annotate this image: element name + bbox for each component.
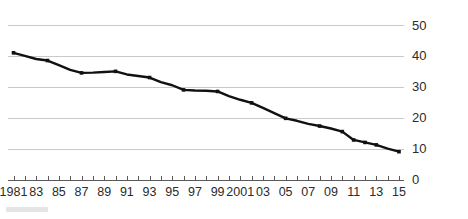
x-axis-label-1983: 83 [29,185,43,199]
data-point-2002 [250,101,254,105]
y-axis-label-40: 40 [412,48,426,63]
x-axis-label-2001: 2001 [226,185,254,199]
data-point-1987 [80,71,84,75]
data-point-1996 [182,88,186,92]
data-point-1981 [12,51,16,55]
x-axis-label-1993: 93 [143,185,157,199]
y-axis-label-50: 50 [412,18,426,33]
y-axis-label-0: 0 [412,172,419,187]
data-point-2012 [363,141,367,145]
x-axis-label-1981: 1981 [0,185,27,199]
x-axis-label-1991: 91 [120,185,134,199]
x-axis-label-1999: 99 [211,185,225,199]
data-point-2013 [375,143,379,147]
x-axis-label-1987: 87 [75,185,89,199]
data-point-1990 [114,70,118,74]
data-point-2010 [341,130,345,134]
data-point-2008 [318,124,322,128]
x-axis-label-2015: 15 [392,185,406,199]
data-point-1993 [148,76,152,80]
x-axis-label-2005: 05 [279,185,293,199]
series-line [14,53,400,152]
gridlines [8,26,404,150]
data-point-1999 [216,90,220,94]
x-axis-ticks [15,176,400,181]
y-axis-label-10: 10 [412,141,426,156]
x-axis-label-2009: 09 [324,185,338,199]
x-axis-label-1985: 85 [52,185,66,199]
y-axis-label-30: 30 [412,79,426,94]
data-point-1984 [46,59,50,63]
x-axis-label-2003: 03 [256,185,270,199]
scan-artifact [6,207,48,212]
x-axis-label-2013: 13 [369,185,383,199]
x-axis-label-2007: 07 [301,185,315,199]
data-point-2005 [284,117,288,121]
data-point-markers [12,51,401,153]
chart-plot-area: 01020304050 1981838587899193959799200103… [0,0,468,219]
x-axis-label-1995: 95 [165,185,179,199]
data-point-2015 [397,150,401,154]
y-axis-label-20: 20 [412,110,426,125]
data-point-2011 [352,138,356,142]
x-axis-label-1989: 89 [97,185,111,199]
x-axis-label-1997: 97 [188,185,202,199]
x-axis-labels: 1981838587899193959799200103050709111315 [0,185,406,199]
data-series [14,53,400,152]
line-chart: 01020304050 1981838587899193959799200103… [0,0,468,219]
x-axis-label-2011: 11 [347,185,360,199]
y-axis-labels: 01020304050 [412,18,426,188]
